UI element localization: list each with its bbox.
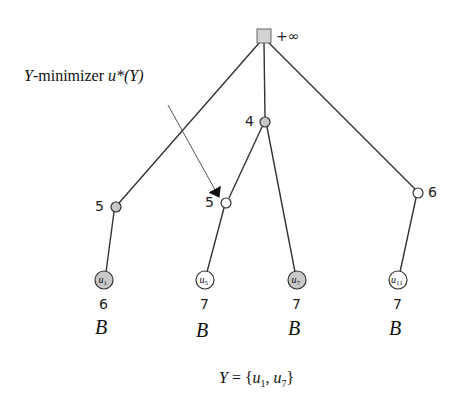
leaf-u11-value: 7 — [393, 297, 402, 311]
annotation-text: -minimizer — [33, 67, 108, 84]
root-square-node — [257, 29, 271, 43]
caption-close: } — [287, 369, 295, 386]
edge-root-mid — [264, 43, 265, 117]
caption-item2: u — [274, 369, 282, 386]
node-right-value: 6 — [428, 185, 437, 199]
caption-eq: = { — [228, 369, 253, 386]
caption-item1: u — [253, 369, 261, 386]
node-mid-value: 4 — [245, 114, 254, 128]
root-value-label: +∞ — [276, 29, 299, 43]
node-mid-4 — [260, 117, 270, 127]
set-caption: Y = {u1, u7} — [219, 370, 294, 389]
svg-text:1: 1 — [104, 279, 108, 287]
node-right-6 — [413, 188, 423, 198]
caption-sep: , — [266, 369, 274, 386]
leaf-u1: u1 — [95, 271, 113, 289]
svg-text:7: 7 — [297, 279, 301, 287]
leaf-u11: u11 — [389, 271, 407, 289]
leaf-u5: u5 — [196, 271, 214, 289]
edge-mid-u7 — [267, 127, 295, 272]
annotation-expr: u*(Y) — [108, 67, 144, 84]
node-midleft-5 — [221, 198, 231, 208]
edge-right-u11 — [400, 198, 416, 272]
edges — [106, 42, 416, 272]
leaf-u11-tag: B — [389, 318, 401, 338]
edge-root-right — [268, 42, 415, 189]
minimizer-annotation-label: Y-minimizer u*(Y) — [24, 68, 144, 84]
leaf-u1-value: 6 — [99, 297, 108, 311]
node-midleft-value: 5 — [205, 195, 214, 209]
leaf-u7-tag: B — [288, 318, 300, 338]
leaf-u7-value: 7 — [292, 297, 301, 311]
svg-text:11: 11 — [396, 279, 403, 287]
tree-diagram: u1 u5 u7 u11 +∞ Y-minimizer u*(Y) 5 4 5 … — [0, 0, 456, 410]
annotation-var: Y — [24, 67, 33, 84]
leaf-u1-tag: B — [95, 317, 107, 337]
edge-midleft-u5 — [207, 208, 224, 272]
leaf-u5-tag: B — [196, 320, 208, 340]
leaf-u5-value: 7 — [200, 297, 209, 311]
tree-edges-layer: u1 u5 u7 u11 — [0, 0, 456, 410]
caption-var: Y — [219, 369, 228, 386]
svg-text:5: 5 — [205, 279, 209, 287]
edge-left-u1 — [106, 212, 114, 272]
node-left-value: 5 — [95, 199, 104, 213]
node-left-5 — [111, 202, 121, 212]
leaf-u7: u7 — [288, 271, 306, 289]
edge-mid-midleft — [229, 127, 262, 198]
